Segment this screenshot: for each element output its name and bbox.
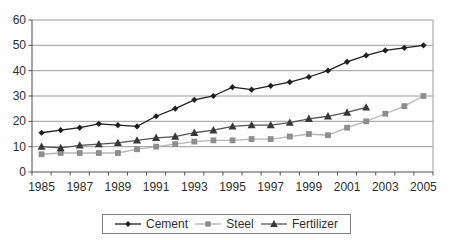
svg-text:60: 60 [13,13,27,27]
square-marker-icon [195,219,221,229]
series-fertilizer [38,103,371,151]
legend-entry-cement: Cement [115,218,188,231]
legend-label-cement: Cement [146,218,188,231]
svg-text:50: 50 [13,38,27,52]
legend-entry-steel: Steel [195,218,253,231]
legend-entry-fertilizer: Fertilizer [261,218,338,231]
chart-legend: Cement Steel Fertilizer [102,214,351,234]
svg-text:1997: 1997 [257,180,284,194]
svg-text:20: 20 [13,114,27,128]
legend-label-fertilizer: Fertilizer [292,218,338,231]
svg-text:1985: 1985 [28,180,55,194]
chart-figure: 0102030405060198519871989199119931995199… [0,0,451,240]
svg-text:2003: 2003 [372,180,399,194]
svg-text:2005: 2005 [410,180,437,194]
svg-text:1995: 1995 [219,180,246,194]
svg-text:0: 0 [19,165,26,179]
axis-ticks [29,20,434,176]
triangle-marker-icon [261,219,287,229]
diamond-marker-icon [115,219,141,229]
svg-text:10: 10 [13,140,27,154]
y-axis-labels: 0102030405060 [13,13,27,179]
line-chart-plot: 0102030405060198519871989199119931995199… [0,0,451,212]
x-axis-labels: 1985198719891991199319951997199920012003… [28,180,437,194]
legend-label-steel: Steel [226,218,253,231]
svg-text:40: 40 [13,64,27,78]
svg-text:1991: 1991 [143,180,170,194]
svg-text:1987: 1987 [66,180,93,194]
svg-text:30: 30 [13,89,27,103]
svg-text:1999: 1999 [296,180,323,194]
svg-text:2001: 2001 [334,180,361,194]
svg-text:1993: 1993 [181,180,208,194]
svg-text:1989: 1989 [105,180,132,194]
